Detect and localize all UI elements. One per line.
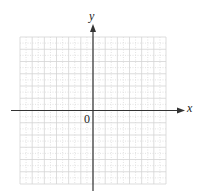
coordinate-grid-svg (0, 0, 200, 195)
y-axis-arrow-icon (90, 24, 96, 32)
x-axis-arrow-icon (177, 108, 185, 114)
y-axis-label: y (89, 10, 94, 22)
origin-label: 0 (84, 113, 90, 125)
coordinate-plane: y x 0 (0, 0, 200, 195)
x-axis-label: x (187, 102, 192, 114)
